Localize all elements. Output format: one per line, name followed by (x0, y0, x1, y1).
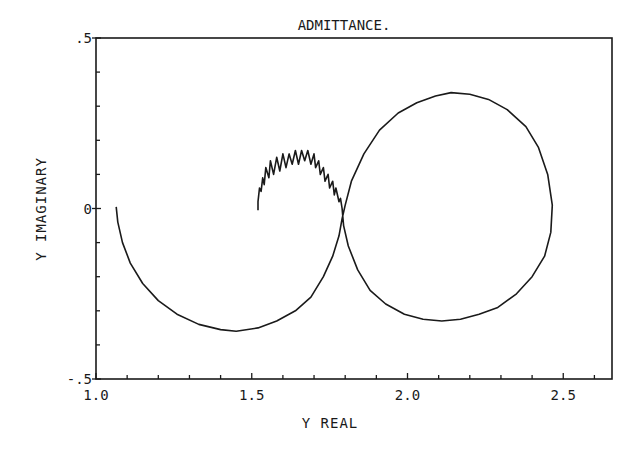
y-tick-label: .5 (75, 30, 92, 46)
chart-container: ADMITTANCE. 1.01.52.02.5 .50-.5 Y REAL Y… (0, 0, 639, 454)
y-axis-label: Y IMAGINARY (33, 157, 49, 261)
x-tick-label: 2.5 (551, 387, 576, 403)
y-axis-tick-labels: .50-.5 (67, 30, 92, 387)
x-tick-label: 2.0 (395, 387, 420, 403)
x-axis-ticks (96, 373, 594, 379)
plot-frame (96, 38, 612, 379)
x-axis-label: Y REAL (302, 415, 359, 431)
y-tick-label: 0 (84, 201, 92, 217)
x-tick-label: 1.5 (239, 387, 264, 403)
chart-svg: ADMITTANCE. 1.01.52.02.5 .50-.5 Y REAL Y… (0, 0, 639, 454)
chart-title: ADMITTANCE. (298, 17, 391, 33)
y-tick-label: -.5 (67, 371, 92, 387)
x-axis-tick-labels: 1.01.52.02.5 (83, 387, 576, 403)
admittance-curve (116, 93, 552, 332)
x-tick-label: 1.0 (83, 387, 108, 403)
